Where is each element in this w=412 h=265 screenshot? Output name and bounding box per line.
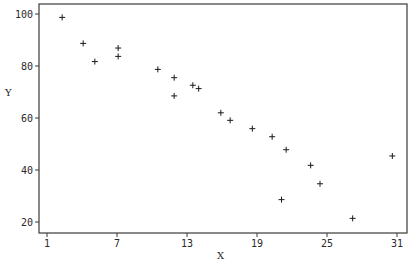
plus-marker <box>171 93 177 99</box>
plus-marker <box>350 215 356 221</box>
plus-marker <box>269 134 275 140</box>
y-axis: 20406080100 <box>15 9 39 228</box>
x-tick-label: 25 <box>321 238 333 249</box>
plus-marker <box>227 117 233 123</box>
plus-marker <box>283 147 289 153</box>
y-tick-label: 20 <box>21 217 33 228</box>
y-tick-label: 80 <box>21 61 33 72</box>
y-tick-label: 100 <box>15 9 33 20</box>
plus-marker <box>115 53 121 59</box>
plus-marker <box>190 82 196 88</box>
plus-marker <box>155 66 161 72</box>
data-points <box>59 14 395 221</box>
scatter-chart: 20406080100 1713192531 Y X <box>0 0 412 265</box>
plus-marker <box>80 40 86 46</box>
y-tick-label: 40 <box>21 165 33 176</box>
y-axis-label: Y <box>4 87 12 98</box>
plus-marker <box>171 75 177 81</box>
plus-marker <box>317 181 323 187</box>
plus-marker <box>308 162 314 168</box>
x-tick-label: 7 <box>114 238 120 249</box>
x-axis: 1713192531 <box>44 233 403 249</box>
plus-marker <box>389 153 395 159</box>
x-axis-label: X <box>217 250 225 261</box>
plus-marker <box>92 59 98 65</box>
plus-marker <box>279 197 285 203</box>
x-tick-label: 1 <box>44 238 50 249</box>
plus-marker <box>59 14 65 20</box>
plus-marker <box>249 126 255 132</box>
x-tick-label: 31 <box>391 238 403 249</box>
x-tick-label: 13 <box>181 238 193 249</box>
plot-frame <box>39 4 407 233</box>
x-tick-label: 19 <box>251 238 263 249</box>
plus-marker <box>115 45 121 51</box>
plus-marker <box>196 86 202 92</box>
y-tick-label: 60 <box>21 113 33 124</box>
plus-marker <box>218 110 224 116</box>
